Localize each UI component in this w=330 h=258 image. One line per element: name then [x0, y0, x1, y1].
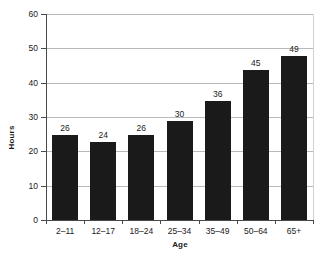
bar[interactable] — [90, 142, 116, 220]
y-axis-tick-label: 0 — [12, 216, 38, 225]
gridline — [46, 83, 313, 84]
x-axis-tick — [275, 220, 276, 224]
x-axis-tick — [84, 220, 85, 224]
x-axis-tick — [46, 220, 47, 224]
x-axis-title: Age — [46, 240, 314, 249]
y-axis-tick — [41, 83, 46, 84]
bar-chart-figure: Hours Age 0102030405060262–112412–172618… — [0, 0, 330, 258]
bar-value-label: 36 — [198, 90, 238, 99]
y-axis-tick — [41, 186, 46, 187]
y-axis-tick-label: 30 — [12, 113, 38, 122]
bar[interactable] — [281, 56, 307, 220]
y-axis-tick — [41, 14, 46, 15]
y-axis-tick — [41, 151, 46, 152]
bar-value-label: 26 — [45, 124, 85, 133]
bar[interactable] — [128, 135, 154, 220]
x-axis-line — [46, 220, 314, 221]
bar-value-label: 26 — [121, 124, 161, 133]
x-axis-tick-label: 65+ — [272, 226, 316, 236]
x-axis-tick — [237, 220, 238, 224]
bar-value-label: 49 — [274, 45, 314, 54]
bar-value-label: 45 — [236, 59, 276, 68]
bar[interactable] — [205, 101, 231, 220]
bar[interactable] — [243, 70, 269, 220]
y-axis-line — [46, 14, 47, 221]
bar-value-label: 24 — [83, 131, 123, 140]
x-axis-tick — [160, 220, 161, 224]
y-axis-tick-label: 50 — [12, 44, 38, 53]
y-axis-tick-label: 10 — [12, 182, 38, 191]
y-axis-tick-label: 60 — [12, 10, 38, 19]
gridline — [46, 14, 313, 15]
x-axis-tick — [122, 220, 123, 224]
x-axis-tick — [199, 220, 200, 224]
x-axis-tick — [313, 220, 314, 224]
bar[interactable] — [167, 121, 193, 220]
y-axis-tick-label: 40 — [12, 79, 38, 88]
bar-value-label: 30 — [160, 110, 200, 119]
y-axis-tick — [41, 117, 46, 118]
y-axis-tick — [41, 48, 46, 49]
bar[interactable] — [52, 135, 78, 220]
y-axis-tick-label: 20 — [12, 147, 38, 156]
